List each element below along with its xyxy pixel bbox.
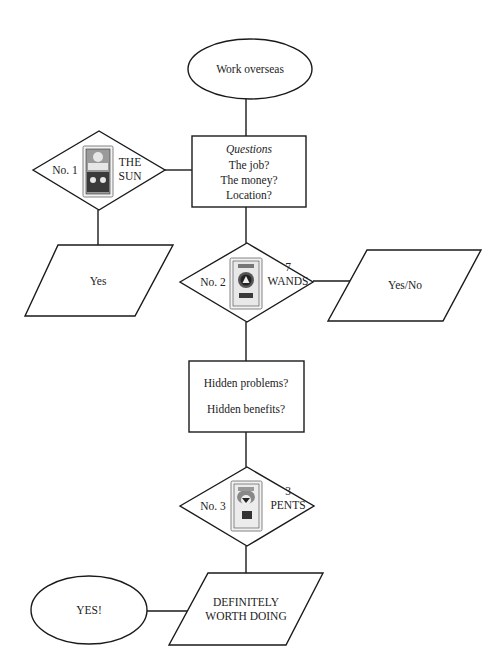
end-node: YES! [31, 576, 147, 644]
card2-name-line2: WANDS [268, 275, 309, 287]
question-money: The money? [220, 174, 277, 187]
conclusion-parallelogram [169, 573, 323, 645]
question-location: Location? [226, 189, 272, 201]
hidden-node: Hidden problems? Hidden benefits? [189, 361, 304, 432]
end-label: YES! [76, 604, 102, 616]
card3-node: No. 3 3 PENTS [180, 467, 314, 546]
start-node: Work overseas [188, 39, 312, 99]
start-label: Work overseas [216, 63, 284, 75]
card1-name-line2: SUN [118, 170, 142, 182]
answer2-node: Yes/No [328, 250, 481, 321]
card3-name-line2: PENTS [270, 499, 305, 511]
question-job: The job? [229, 159, 270, 172]
answer1-label: Yes [90, 275, 107, 287]
card1-name-line1: THE [119, 156, 141, 168]
card3-number: No. 3 [200, 500, 226, 512]
card1-node: No. 1 THE SUN [33, 131, 165, 210]
conclusion-line1: DEFINITELY [213, 596, 280, 608]
conclusion-node: DEFINITELY WORTH DOING [169, 573, 323, 645]
questions-heading: Questions [226, 143, 273, 155]
tarot-pentacles-icon [231, 481, 262, 531]
hidden-box [189, 361, 304, 432]
tarot-wands-icon [230, 258, 262, 309]
card2-name-line1: 7 [285, 261, 291, 273]
flowchart-canvas: Work overseas Questions The job? The mon… [0, 0, 502, 662]
questions-node: Questions The job? The money? Location? [192, 136, 306, 207]
card1-number: No. 1 [52, 164, 78, 176]
conclusion-line2: WORTH DOING [205, 610, 286, 622]
tarot-sun-icon [83, 146, 113, 197]
card2-node: No. 2 7 WANDS [180, 243, 313, 322]
answer1-node: Yes [25, 245, 173, 316]
answer2-label: Yes/No [388, 279, 422, 291]
hidden-problems: Hidden problems? [204, 377, 289, 390]
card3-name-line1: 3 [285, 485, 291, 497]
hidden-benefits: Hidden benefits? [207, 403, 285, 415]
card2-number: No. 2 [200, 276, 226, 288]
